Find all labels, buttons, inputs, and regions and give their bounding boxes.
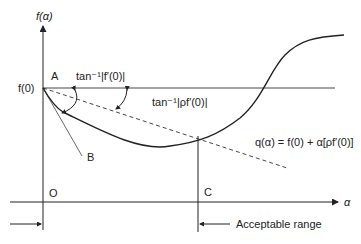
angle-label-1: tan⁻¹|f′(0)| (76, 70, 125, 82)
angle-label-2: tan⁻¹|ρf′(0)| (152, 96, 208, 108)
angle-arc-1 (62, 90, 77, 113)
y-axis-label: f(α) (36, 10, 53, 22)
point-o-label: O (49, 187, 58, 199)
f-alpha-curve (43, 35, 344, 147)
f0-label: f(0) (18, 82, 35, 94)
point-b-label: B (87, 151, 94, 163)
x-axis-label: α (344, 196, 351, 208)
point-c-label: C (204, 186, 212, 198)
angle-arc-2 (116, 90, 127, 109)
point-a-label: A (51, 70, 59, 82)
acceptable-range-label: Acceptable range (236, 218, 322, 230)
q-alpha-label: q(α) = f(0) + α[ρf′(0)] (255, 136, 354, 148)
line-search-diagram: f(α) α f(0) A B O C tan⁻¹|f′(0)| tan⁻¹|ρ… (0, 0, 361, 244)
